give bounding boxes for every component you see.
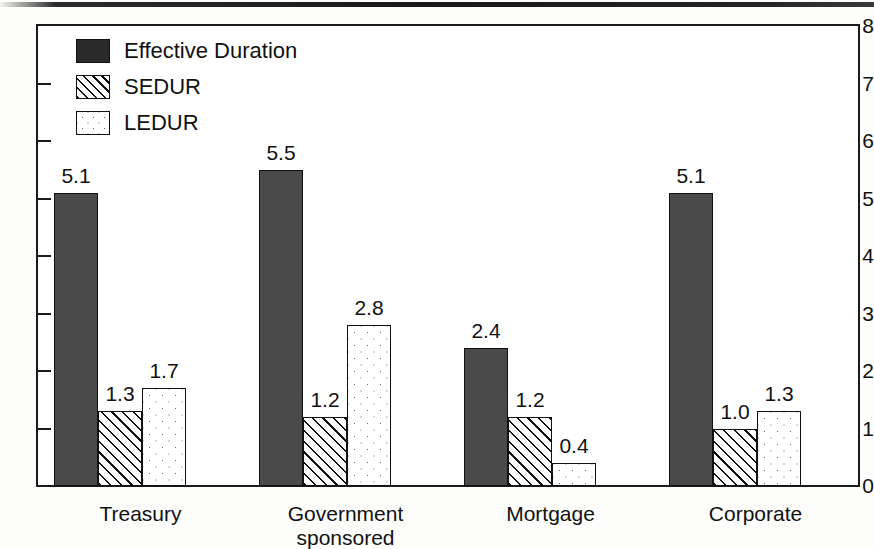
y-axis-tick-mark: [38, 313, 51, 315]
bar-value-label: 1.3: [90, 383, 150, 404]
bar: [98, 411, 142, 486]
bar: [464, 348, 508, 486]
y-axis-tick-mark: [38, 83, 51, 85]
legend-item: Effective Duration: [76, 36, 297, 66]
bar-value-label: 1.2: [500, 389, 560, 410]
bar-value-label: 1.2: [295, 389, 355, 410]
bar: [54, 193, 98, 486]
legend-label: SEDUR: [124, 76, 201, 98]
bar-value-label: 1.3: [749, 383, 809, 404]
bar: [552, 463, 596, 486]
legend-label: Effective Duration: [124, 40, 297, 62]
y-axis-tick-mark: [38, 370, 51, 372]
y-axis-tick-mark: [38, 198, 51, 200]
bar-value-label: 0.4: [544, 435, 604, 456]
bar: [347, 325, 391, 486]
bar-value-label: 2.4: [456, 320, 516, 341]
y-axis-tick-label: 3: [846, 303, 874, 324]
bar-value-label: 5.5: [251, 142, 311, 163]
y-axis-tick-label: 6: [846, 130, 874, 151]
y-axis-tick-label: 5: [846, 188, 874, 209]
bar: [713, 429, 757, 487]
legend-item: LEDUR: [76, 108, 297, 138]
bar-value-label: 2.8: [339, 297, 399, 318]
bar: [259, 170, 303, 486]
y-axis-tick-label: 4: [846, 245, 874, 266]
legend-swatch-icon: [76, 39, 110, 63]
y-axis-tick-mark: [38, 140, 51, 142]
y-axis-tick-mark: [38, 255, 51, 257]
legend-item: SEDUR: [76, 72, 297, 102]
y-axis-tick-label: 7: [846, 73, 874, 94]
bar: [142, 388, 186, 486]
y-axis-tick-label: 2: [846, 360, 874, 381]
category-label: Corporate: [633, 502, 874, 526]
bar-value-label: 1.7: [134, 360, 194, 381]
bar: [757, 411, 801, 486]
chart-legend: Effective DurationSEDURLEDUR: [76, 36, 297, 144]
bar: [303, 417, 347, 486]
legend-swatch-icon: [76, 111, 110, 135]
bar-value-label: 5.1: [661, 165, 721, 186]
y-axis-tick-label: 1: [846, 418, 874, 439]
bar: [669, 193, 713, 486]
legend-swatch-icon: [76, 75, 110, 99]
y-axis-tick-label: 0: [846, 475, 874, 496]
bar-value-label: 5.1: [46, 165, 106, 186]
y-axis-tick-mark: [38, 428, 51, 430]
legend-label: LEDUR: [124, 112, 199, 134]
y-axis-tick-label: 8: [846, 15, 874, 36]
